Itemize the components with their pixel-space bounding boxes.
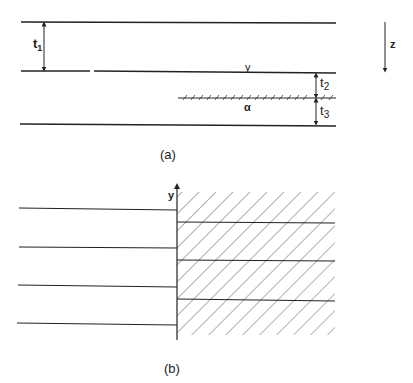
hatched-region: [177, 192, 335, 335]
panel-b-caption: (b): [164, 361, 180, 376]
layer-boundary-2-right: [94, 71, 336, 73]
panel-a: t1 t2 t3 γ α z (a): [20, 22, 396, 162]
alpha-label: α: [244, 101, 251, 113]
y-axis-label: y: [168, 189, 175, 201]
t2-label: t2: [320, 75, 330, 92]
layer-boundary-bottom: [20, 124, 336, 126]
layer-boundary-top: [21, 22, 336, 23]
panel-a-caption: (a): [160, 147, 176, 162]
alpha-interface-hatched: [178, 95, 336, 100]
t1-label: t1: [33, 36, 42, 53]
t3-label: t3: [320, 103, 330, 120]
incident-lines: [17, 208, 177, 325]
panel-b: y (b): [17, 186, 335, 376]
gamma-label: γ: [245, 61, 251, 73]
figure: t1 t2 t3 γ α z (a) y (b): [0, 0, 413, 383]
z-axis-label: z: [390, 38, 396, 50]
